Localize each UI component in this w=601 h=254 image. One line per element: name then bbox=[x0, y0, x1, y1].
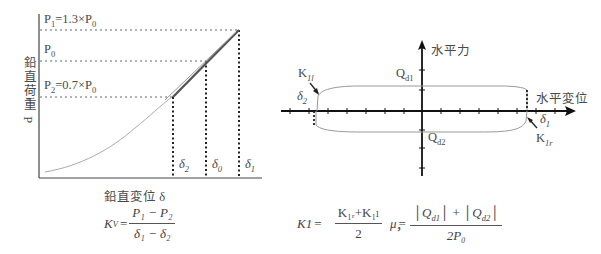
delta2-label: δ2 bbox=[179, 157, 189, 174]
k1r-label: K1r bbox=[536, 131, 553, 148]
p0-label: P0 bbox=[44, 42, 55, 59]
load-curve bbox=[45, 30, 238, 172]
formula-mu: μ = │Qd1│ + │Qd2│ 2P₀ bbox=[390, 205, 502, 244]
delta1-label: δ1 bbox=[245, 157, 255, 174]
qd1-label: Qd1 bbox=[396, 66, 414, 83]
y-axis-label-right: 水平力 bbox=[431, 40, 470, 59]
qd2-label: Qd2 bbox=[428, 130, 446, 147]
delta2-right-label: δ2 bbox=[297, 89, 307, 106]
y-axis-label-left: 鉛直荷重 P bbox=[19, 56, 38, 124]
x-axis-label-left: 鉛直変位 δ bbox=[104, 186, 165, 205]
stiffness-segment-shadow bbox=[165, 32, 236, 100]
stiffness-segment bbox=[173, 30, 239, 97]
delta0-label: δ0 bbox=[212, 157, 222, 174]
formula-kv: KV = P₁ − P₂ δ₁ − δ₂ bbox=[104, 205, 175, 242]
p1-label: P1=1.3×P0 bbox=[44, 12, 96, 29]
k1l-label: K1l bbox=[298, 66, 314, 83]
p2-label: P2=0.7×P0 bbox=[44, 78, 96, 95]
x-axis-label-right: 水平変位 bbox=[536, 88, 588, 107]
delta1-right-label: δ1 bbox=[540, 112, 550, 129]
